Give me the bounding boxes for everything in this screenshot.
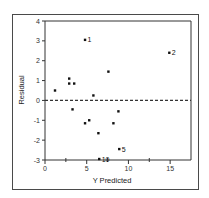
data-point — [168, 52, 170, 54]
data-point — [117, 110, 119, 112]
x-tick-label: 15 — [166, 165, 174, 172]
y-tick-label: 1 — [36, 77, 40, 84]
y-axis-label: Residual — [17, 75, 26, 105]
data-point — [68, 82, 70, 84]
point-label: 10 — [102, 156, 110, 163]
y-tick-label: 4 — [36, 18, 40, 25]
point-label: 1 — [88, 36, 92, 43]
data-point — [112, 122, 114, 124]
data-points: 12510 — [54, 36, 176, 162]
data-point — [71, 108, 73, 110]
data-point — [68, 77, 70, 79]
x-tick-label: 5 — [85, 165, 89, 172]
data-point — [84, 39, 86, 41]
data-point — [84, 122, 86, 124]
data-point — [118, 148, 120, 150]
data-point — [97, 132, 99, 134]
data-point — [107, 70, 109, 72]
y-tick-label: -1 — [34, 117, 40, 124]
y-tick-label: 0 — [36, 97, 40, 104]
scatter-plot: -3-2-101234051015 12510 Y Predicted Resi… — [0, 0, 209, 198]
plot-axes — [45, 21, 191, 160]
data-point — [92, 94, 94, 96]
y-tick-label: -2 — [34, 137, 40, 144]
data-point — [54, 89, 56, 91]
x-tick-label: 0 — [43, 165, 47, 172]
data-point — [98, 158, 100, 160]
data-point — [73, 82, 75, 84]
data-point — [88, 119, 90, 121]
x-axis-label: Y Predicted — [93, 176, 132, 185]
y-tick-label: 3 — [36, 37, 40, 44]
y-tick-label: -3 — [34, 157, 40, 164]
x-tick-label: 10 — [125, 165, 133, 172]
point-label: 2 — [172, 49, 176, 56]
point-label: 5 — [122, 146, 126, 153]
y-tick-label: 2 — [36, 57, 40, 64]
axis-ticks: -3-2-101234051015 — [34, 18, 174, 173]
